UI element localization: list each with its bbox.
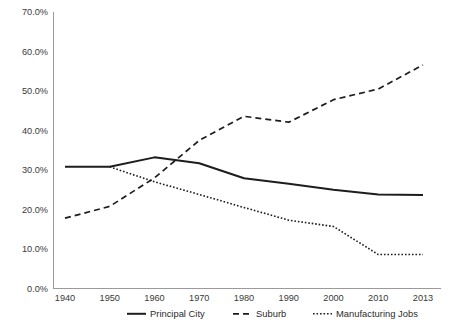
x-axis-tick-label: 2000 <box>323 293 343 303</box>
legend-item-manufacturing-jobs[interactable]: Manufacturing Jobs <box>313 308 418 319</box>
x-axis-tick-label: 1990 <box>279 293 299 303</box>
legend-item-label: Manufacturing Jobs <box>336 308 418 319</box>
legend-item-label: Suburb <box>256 308 286 319</box>
y-axis-tick-label: 20.0% <box>22 205 48 215</box>
y-axis-tick-label: 30.0% <box>22 165 48 175</box>
legend-item-principal-city[interactable]: Principal City <box>127 308 205 319</box>
legend-item-suburb[interactable]: Suburb <box>233 308 286 319</box>
series-line-principal-city <box>65 157 423 195</box>
x-axis-tick-label: 1940 <box>55 293 75 303</box>
y-axis-tick-label: 40.0% <box>22 126 48 136</box>
series-line-manufacturing-jobs <box>110 167 423 255</box>
x-axis-tick-label: 1950 <box>100 293 120 303</box>
legend-item-label: Principal City <box>150 308 205 319</box>
x-axis-tick-label: 1970 <box>189 293 209 303</box>
y-axis-tick-label: 50.0% <box>22 86 48 96</box>
chart-canvas: 70.0%60.0%50.0%40.0%30.0%20.0%10.0%0.0% … <box>0 0 457 332</box>
y-axis-tick-label: 0.0% <box>27 284 48 294</box>
line-chart: 70.0%60.0%50.0%40.0%30.0%20.0%10.0%0.0% … <box>0 0 457 332</box>
series-line-suburb <box>65 65 423 218</box>
x-axis-tick-label: 1960 <box>144 293 164 303</box>
y-axis-tick-label: 60.0% <box>22 47 48 57</box>
x-axis-tick-label: 1980 <box>234 293 254 303</box>
x-axis-tick-labels: 194019501960197019801990200020102013 <box>55 293 433 303</box>
x-axis-tick-label: 2010 <box>368 293 388 303</box>
chart-legend: Principal CitySuburbManufacturing Jobs <box>127 308 418 319</box>
data-series-group <box>65 65 423 255</box>
y-axis-tick-label: 10.0% <box>22 244 48 254</box>
y-axis-tick-labels: 70.0%60.0%50.0%40.0%30.0%20.0%10.0%0.0% <box>22 7 48 294</box>
x-axis-tick-label: 2013 <box>413 293 433 303</box>
y-axis-tick-label: 70.0% <box>22 7 48 17</box>
